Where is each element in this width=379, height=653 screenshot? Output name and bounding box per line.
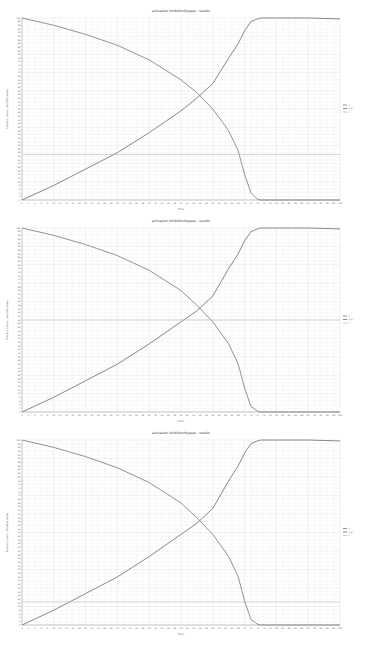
svg-text:92: 92	[313, 627, 316, 630]
svg-text:8: 8	[19, 184, 21, 187]
svg-text:78: 78	[18, 480, 21, 483]
svg-text:50: 50	[18, 531, 21, 534]
svg-text:12: 12	[59, 627, 62, 630]
svg-text:66: 66	[230, 627, 233, 630]
svg-text:6: 6	[40, 202, 42, 205]
svg-text:40: 40	[18, 126, 21, 129]
svg-text:48: 48	[173, 414, 176, 417]
svg-text:62: 62	[18, 297, 21, 300]
svg-text:78: 78	[269, 414, 272, 417]
svg-text:74: 74	[18, 275, 21, 278]
svg-text:12: 12	[18, 177, 21, 180]
svg-text:44: 44	[161, 202, 164, 205]
svg-text:92: 92	[18, 31, 21, 34]
svg-text:48: 48	[18, 111, 21, 114]
svg-text:72: 72	[18, 68, 21, 71]
svg-text:38: 38	[141, 202, 144, 205]
x-axis-label: Time	[178, 633, 185, 636]
svg-text:38: 38	[141, 414, 144, 417]
svg-text:96: 96	[326, 627, 329, 630]
svg-text:74: 74	[256, 627, 259, 630]
svg-text:20: 20	[18, 374, 21, 377]
svg-text:90: 90	[18, 457, 21, 460]
svg-text:58: 58	[205, 627, 208, 630]
svg-text:58: 58	[18, 304, 21, 307]
svg-text:80: 80	[275, 202, 278, 205]
svg-text:92: 92	[313, 202, 316, 205]
tick-labels: 0246810121416182022242628303234363840424…	[16, 227, 342, 417]
svg-text:74: 74	[18, 64, 21, 67]
svg-text:22: 22	[18, 583, 21, 586]
svg-text:16: 16	[71, 627, 74, 630]
svg-text:98: 98	[18, 230, 21, 233]
svg-text:14: 14	[65, 202, 68, 205]
svg-text:10: 10	[52, 202, 55, 205]
svg-text:0: 0	[21, 627, 23, 630]
svg-text:40: 40	[18, 550, 21, 553]
svg-text:28: 28	[18, 148, 21, 151]
svg-text:82: 82	[281, 202, 284, 205]
svg-text:46: 46	[18, 539, 21, 542]
svg-text:16: 16	[71, 202, 74, 205]
svg-text:2: 2	[28, 627, 30, 630]
svg-text:42: 42	[154, 202, 157, 205]
svg-text:100: 100	[16, 227, 21, 230]
svg-text:4: 4	[34, 202, 36, 205]
svg-text:68: 68	[18, 75, 21, 78]
svg-text:30: 30	[18, 568, 21, 571]
legend-label: t	[349, 111, 350, 114]
svg-text:44: 44	[161, 414, 164, 417]
svg-text:40: 40	[18, 337, 21, 340]
svg-text:36: 36	[18, 345, 21, 348]
svg-text:68: 68	[18, 286, 21, 289]
svg-text:32: 32	[18, 141, 21, 144]
tick-labels: 0246810121416182022242628303234363840424…	[16, 17, 342, 205]
chart-title: activation inhibition/bypass - results	[152, 9, 210, 13]
svg-text:94: 94	[18, 28, 21, 31]
svg-text:34: 34	[129, 202, 132, 205]
svg-text:64: 64	[224, 627, 227, 630]
svg-text:84: 84	[288, 627, 291, 630]
svg-text:28: 28	[110, 414, 113, 417]
svg-text:50: 50	[18, 108, 21, 111]
svg-text:10: 10	[52, 627, 55, 630]
svg-text:26: 26	[18, 576, 21, 579]
svg-text:54: 54	[18, 524, 21, 527]
svg-text:70: 70	[243, 202, 246, 205]
svg-text:42: 42	[18, 334, 21, 337]
svg-text:68: 68	[237, 202, 240, 205]
svg-text:0: 0	[21, 202, 23, 205]
svg-text:18: 18	[18, 378, 21, 381]
svg-text:26: 26	[18, 363, 21, 366]
svg-text:80: 80	[18, 264, 21, 267]
legend: xx_et	[343, 315, 353, 325]
svg-text:90: 90	[307, 627, 310, 630]
svg-text:64: 64	[18, 505, 21, 508]
svg-text:54: 54	[18, 311, 21, 314]
svg-text:38: 38	[18, 130, 21, 133]
svg-text:72: 72	[250, 627, 253, 630]
svg-text:10: 10	[52, 414, 55, 417]
svg-text:56: 56	[18, 520, 21, 523]
svg-text:4: 4	[34, 627, 36, 630]
svg-text:100: 100	[16, 17, 21, 20]
svg-text:88: 88	[18, 39, 21, 42]
svg-text:44: 44	[18, 330, 21, 333]
svg-text:90: 90	[307, 202, 310, 205]
svg-text:14: 14	[18, 385, 21, 388]
svg-text:96: 96	[18, 446, 21, 449]
svg-text:12: 12	[18, 602, 21, 605]
svg-text:18: 18	[78, 202, 81, 205]
svg-text:98: 98	[332, 202, 335, 205]
svg-text:58: 58	[205, 202, 208, 205]
svg-text:34: 34	[129, 414, 132, 417]
chart-2-svg: activation inhibition/bypass - results02…	[0, 212, 379, 430]
svg-text:4: 4	[19, 616, 21, 619]
svg-text:72: 72	[250, 414, 253, 417]
legend: xx_et	[343, 104, 353, 114]
svg-text:32: 32	[18, 565, 21, 568]
svg-text:42: 42	[18, 546, 21, 549]
svg-text:46: 46	[167, 202, 170, 205]
svg-text:36: 36	[135, 414, 138, 417]
tick-labels: 0246810121416182022242628303234363840424…	[16, 439, 342, 630]
